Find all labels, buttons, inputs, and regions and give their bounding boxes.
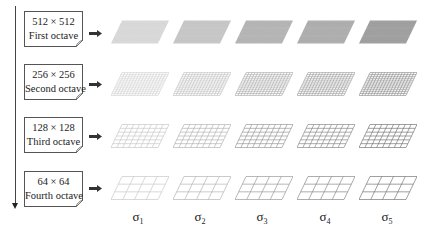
right-arrow-icon xyxy=(89,30,102,37)
scale-label-5: σ5 xyxy=(375,209,399,226)
octave-resolution: 256 × 256 xyxy=(25,68,82,82)
right-arrow-icon xyxy=(89,133,102,140)
octave-axis-line xyxy=(15,6,16,205)
scale-grid-octave3-sigma3 xyxy=(235,124,293,148)
right-arrow-icon xyxy=(89,185,102,192)
octave-box-2: 256 × 256 Second octave xyxy=(24,64,83,100)
octave-box-3: 128 × 128 Third octave xyxy=(24,117,83,153)
scale-label-4: σ4 xyxy=(313,209,337,226)
scale-grid-octave2-sigma5 xyxy=(359,72,417,96)
scale-grid-octave4-sigma5 xyxy=(359,176,417,200)
octave-resolution: 128 × 128 xyxy=(25,121,82,135)
page-fold-icon xyxy=(76,146,83,153)
scale-grid-octave3-sigma5 xyxy=(359,124,417,148)
right-arrow-icon xyxy=(89,81,102,88)
scale-grid-octave1-sigma2 xyxy=(173,20,231,44)
scale-grid-octave4-sigma2 xyxy=(173,176,231,200)
octave-resolution: 512 × 512 xyxy=(25,15,82,29)
scale-label-2: σ2 xyxy=(188,209,212,226)
octave-box-4: 64 × 64 Fourth octave xyxy=(24,171,83,207)
scale-grid-octave1-sigma1 xyxy=(111,20,169,44)
scale-grid-octave2-sigma1 xyxy=(111,72,169,96)
scale-grid-octave1-sigma4 xyxy=(297,20,355,44)
scale-grid-octave4-sigma4 xyxy=(297,176,355,200)
scale-label-1: σ1 xyxy=(126,209,150,226)
scale-grid-octave4-sigma3 xyxy=(235,176,293,200)
octave-name: First octave xyxy=(25,29,82,43)
octave-box-1: 512 × 512 First octave xyxy=(24,11,83,47)
scale-grid-octave2-sigma2 xyxy=(173,72,231,96)
scale-grid-octave3-sigma2 xyxy=(173,124,231,148)
octave-resolution: 64 × 64 xyxy=(25,175,82,189)
scale-grid-octave1-sigma3 xyxy=(235,20,293,44)
page-fold-icon xyxy=(76,40,83,47)
scale-grid-octave3-sigma1 xyxy=(111,124,169,148)
octave-name: Second octave xyxy=(25,82,82,96)
scale-grid-octave2-sigma3 xyxy=(235,72,293,96)
scale-grid-octave1-sigma5 xyxy=(359,20,417,44)
page-fold-icon xyxy=(76,200,83,207)
scale-grid-octave2-sigma4 xyxy=(297,72,355,96)
scale-grid-octave3-sigma4 xyxy=(297,124,355,148)
page-fold-icon xyxy=(76,93,83,100)
down-arrow-icon xyxy=(12,203,18,209)
octave-name: Third octave xyxy=(25,135,82,149)
octave-name: Fourth octave xyxy=(25,189,82,203)
scale-grid-octave4-sigma1 xyxy=(111,176,169,200)
scale-label-3: σ3 xyxy=(250,209,274,226)
